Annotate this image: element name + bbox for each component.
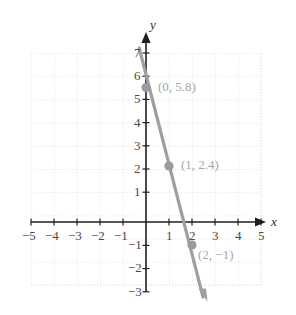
x-tick-label-neg2: −2 <box>91 229 105 242</box>
x-tick-label-1: 1 <box>166 229 173 242</box>
y-tick-label-2: 2 <box>134 162 141 175</box>
point-label-0-5-8: (0, 5.8) <box>158 80 196 93</box>
x-tick-label-5: 5 <box>258 229 265 242</box>
x-tick-label-4: 4 <box>235 229 242 242</box>
x-tick-label-2: 2 <box>189 229 196 242</box>
coordinate-graph-figure: x y −5 −4 −3 −2 −1 1 2 3 4 5 7 6 5 4 3 2… <box>0 0 296 315</box>
y-tick-label-4: 4 <box>134 116 141 129</box>
y-tick-label-6: 6 <box>134 69 141 82</box>
y-tick-label-3: 3 <box>134 139 141 152</box>
y-axis-label: y <box>150 18 156 31</box>
point-label-1-2-4: (1, 2.4) <box>181 158 219 171</box>
data-point-0-5-8 <box>141 83 150 92</box>
y-tick-label-neg1: −1 <box>128 238 142 251</box>
x-tick-label-neg4: −4 <box>45 229 59 242</box>
data-point-1-2-4 <box>164 161 173 170</box>
y-tick-label-neg3: −3 <box>128 285 142 298</box>
x-tick-label-3: 3 <box>212 229 219 242</box>
x-tick-label-neg5: −5 <box>22 229 36 242</box>
y-tick-label-7: 7 <box>134 46 141 59</box>
y-tick-label-1: 1 <box>134 185 141 198</box>
point-label-2-neg1: (2, −1) <box>198 248 234 261</box>
x-tick-label-neg1: −1 <box>114 229 128 242</box>
x-axis-label: x <box>271 215 277 228</box>
x-tick-label-neg3: −3 <box>68 229 82 242</box>
y-tick-label-5: 5 <box>134 92 141 105</box>
plot-canvas <box>0 0 296 315</box>
y-tick-label-neg2: −2 <box>128 261 142 274</box>
